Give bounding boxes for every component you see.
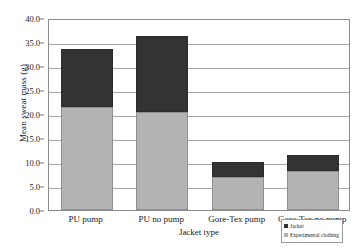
y-axis-tick-mark <box>40 211 44 212</box>
y-axis-tick-label: 35.0 <box>25 39 40 48</box>
legend-label: Jacket <box>290 222 304 230</box>
y-axis-tick-mark <box>40 163 44 164</box>
y-axis-tick-mark <box>40 115 44 116</box>
x-axis-tick-label: Gore-Tex pump <box>208 213 265 225</box>
bar-segment-experimental-clothing <box>287 171 339 210</box>
y-axis-tick-label: 25.0 <box>25 87 40 96</box>
legend-item: Jacket <box>284 222 339 230</box>
bar-segment-experimental-clothing <box>212 177 264 210</box>
x-axis-tick-label: PU pump <box>69 213 103 225</box>
bars-layer <box>49 20 349 210</box>
bar-group <box>61 18 113 210</box>
chart-legend: JacketExperimental clothing <box>281 219 343 243</box>
y-axis-tick-label: 30.0 <box>25 63 40 72</box>
bar-segment-jacket <box>212 162 264 177</box>
y-axis-tick-labels: 40.035.030.025.020.015.010.05.00.0 <box>8 19 44 211</box>
bar-group <box>287 18 339 210</box>
bar-chart: Mean sweat mass (g) 40.035.030.025.020.0… <box>0 0 363 251</box>
y-axis-tick-label: 5.0 <box>29 183 40 192</box>
x-axis-tick-label: PU no pump <box>138 213 184 225</box>
y-axis-tick-mark <box>40 187 44 188</box>
legend-item: Experimental clothing <box>284 231 339 239</box>
y-axis-tick-label: 15.0 <box>25 135 40 144</box>
legend-label: Experimental clothing <box>290 231 339 239</box>
bar-segment-experimental-clothing <box>61 107 113 210</box>
y-axis-tick-label: 40.0 <box>25 15 40 24</box>
y-axis-tick-mark <box>40 43 44 44</box>
y-axis-tick-mark <box>40 67 44 68</box>
bar-segment-experimental-clothing <box>136 112 188 210</box>
y-axis-tick-label: 0.0 <box>29 207 40 216</box>
plot-area <box>48 19 350 211</box>
y-axis-tick-mark <box>40 139 44 140</box>
bar-segment-jacket <box>287 155 339 171</box>
bar-segment-jacket <box>61 49 113 107</box>
y-axis-tick-mark <box>40 91 44 92</box>
legend-swatch-icon <box>284 233 288 237</box>
y-axis-tick-label: 10.0 <box>25 159 40 168</box>
legend-swatch-icon <box>284 224 288 228</box>
y-axis-tick-mark <box>40 19 44 20</box>
bar-group <box>212 18 264 210</box>
y-axis-tick-label: 20.0 <box>25 111 40 120</box>
bar-group <box>136 18 188 210</box>
bar-segment-jacket <box>136 36 188 112</box>
